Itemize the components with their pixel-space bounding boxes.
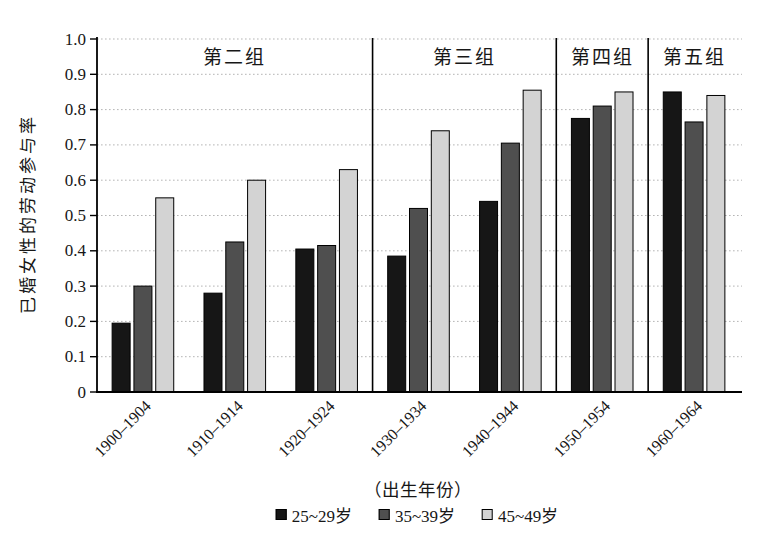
bar-45~49岁-1960–1964 — [707, 95, 725, 392]
bar-25~29岁-1920–1924 — [296, 249, 314, 392]
y-tick-label: 0.4 — [65, 241, 87, 260]
legend-swatch-icon — [379, 509, 390, 520]
x-category-label: 1960–1964 — [642, 397, 705, 460]
group-label: 第五组 — [663, 47, 726, 68]
bar-45~49岁-1910–1914 — [248, 180, 266, 392]
group-label: 第二组 — [203, 47, 266, 68]
bar-45~49岁-1920–1924 — [339, 170, 357, 392]
bar-35~39岁-1940–1944 — [501, 143, 519, 392]
legend: 25~29岁35~39岁45~49岁 — [276, 502, 559, 527]
legend-label: 35~39岁 — [395, 502, 455, 527]
x-category-label: 1940–1944 — [459, 397, 522, 460]
bar-45~49岁-1930–1934 — [431, 131, 449, 392]
bar-25~29岁-1950–1954 — [571, 118, 589, 392]
group-label: 第四组 — [571, 47, 634, 68]
y-tick-label: 0.7 — [65, 135, 87, 154]
y-tick-label: 0.3 — [65, 277, 86, 296]
y-tick-label: 0.6 — [65, 171, 86, 190]
legend-item: 45~49岁 — [482, 502, 558, 527]
bar-25~29岁-1910–1914 — [204, 293, 222, 392]
x-category-label: 1930–1934 — [367, 397, 430, 460]
y-tick-label: 0.5 — [65, 206, 86, 225]
y-tick-label: 0.1 — [65, 347, 86, 366]
bar-25~29岁-1930–1934 — [388, 256, 406, 392]
legend-label: 45~49岁 — [498, 502, 558, 527]
group-label: 第三组 — [433, 47, 496, 68]
bar-45~49岁-1950–1954 — [615, 92, 633, 392]
bar-35~39岁-1900–1904 — [134, 286, 152, 392]
x-category-label: 1950–1954 — [550, 397, 613, 460]
chart-plot-area: 1.00.90.80.70.60.50.40.30.20.101900–1904… — [0, 0, 761, 543]
x-category-label: 1920–1924 — [275, 397, 338, 460]
bar-35~39岁-1920–1924 — [318, 246, 336, 392]
legend-item: 25~29岁 — [276, 502, 352, 527]
y-tick-label: 0.8 — [65, 100, 86, 119]
bar-35~39岁-1950–1954 — [593, 106, 611, 392]
y-tick-label: 0.2 — [65, 312, 86, 331]
y-tick-label: 0 — [78, 383, 87, 402]
bar-35~39岁-1910–1914 — [226, 242, 244, 392]
bar-35~39岁-1930–1934 — [410, 208, 428, 392]
x-category-label: 1900–1904 — [91, 397, 154, 460]
labor-participation-bar-chart: 1.00.90.80.70.60.50.40.30.20.101900–1904… — [0, 0, 761, 543]
bar-25~29岁-1900–1904 — [112, 323, 130, 392]
legend-label: 25~29岁 — [292, 502, 352, 527]
x-category-label: 1910–1914 — [183, 397, 246, 460]
bar-25~29岁-1960–1964 — [663, 92, 681, 392]
legend-swatch-icon — [482, 509, 493, 520]
legend-swatch-icon — [276, 509, 287, 520]
bar-35~39岁-1960–1964 — [685, 122, 703, 392]
y-tick-label: 1.0 — [65, 30, 86, 49]
bar-45~49岁-1900–1904 — [156, 198, 174, 392]
y-tick-label: 0.9 — [65, 65, 86, 84]
bar-45~49岁-1940–1944 — [523, 90, 541, 392]
y-axis-title: 已婚女性的劳动参与率 — [14, 114, 39, 314]
bar-25~29岁-1940–1944 — [480, 201, 498, 392]
legend-item: 35~39岁 — [379, 502, 455, 527]
x-axis-title: （出生年份） — [364, 476, 472, 501]
